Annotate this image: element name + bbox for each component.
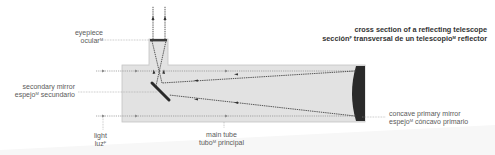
label-primary-mirror: concave primary mirror espejoM cóncavo p… (389, 110, 468, 126)
eyepiece-lens (150, 39, 167, 41)
diagram-title: cross section of a reflecting telescope … (322, 26, 487, 43)
label-light: light luzF (94, 132, 107, 148)
label-secondary-mirror: secondary mirror espejoM secundario (15, 83, 75, 99)
title-es: secciónF transversal de un telescopioM r… (322, 35, 487, 44)
eyepiece-tube (149, 39, 168, 66)
telescope-diagram (0, 0, 495, 155)
label-eyepiece: eyepiece ocularM (75, 29, 103, 45)
label-main-tube: main tube tuboM principal (199, 131, 244, 147)
